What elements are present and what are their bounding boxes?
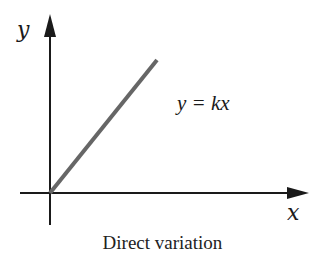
diagram-caption: Direct variation	[0, 232, 325, 254]
x-axis-label: x	[287, 200, 299, 225]
x-axis-arrow-icon	[287, 187, 309, 199]
y-axis-arrow-icon	[44, 14, 56, 37]
y-axis-label: y	[17, 17, 29, 42]
diagram-canvas	[0, 0, 325, 265]
equation-label: y = kx	[177, 91, 230, 116]
direct-variation-line	[50, 60, 157, 193]
